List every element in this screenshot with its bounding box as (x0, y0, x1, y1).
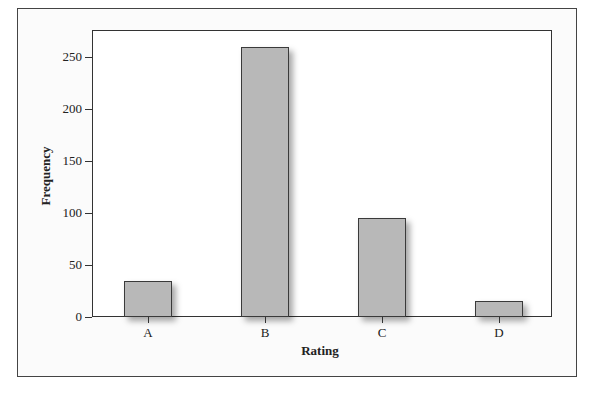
y-tick (85, 213, 92, 214)
bar-b (241, 47, 289, 317)
x-tick (265, 317, 266, 323)
bar-d (475, 301, 523, 317)
y-tick (85, 57, 92, 58)
x-tick (382, 317, 383, 323)
y-tick-label: 50 (40, 258, 82, 272)
y-tick-label: 250 (40, 50, 82, 64)
y-tick-label: 200 (40, 102, 82, 116)
x-tick (499, 317, 500, 323)
x-axis-title: Rating (270, 343, 370, 359)
x-tick-label: D (479, 325, 519, 341)
plot-area (92, 30, 552, 317)
x-tick (148, 317, 149, 323)
x-tick-label: C (362, 325, 402, 341)
x-tick-label: B (245, 325, 285, 341)
y-tick (85, 161, 92, 162)
y-tick (85, 265, 92, 266)
bar-a (124, 281, 172, 317)
x-tick-label: A (128, 325, 168, 341)
y-axis-title: Frequency (38, 147, 54, 206)
y-tick-label: 0 (40, 310, 82, 324)
y-tick-label: 100 (40, 206, 82, 220)
y-tick (85, 317, 92, 318)
y-tick (85, 109, 92, 110)
bar-c (358, 218, 406, 317)
